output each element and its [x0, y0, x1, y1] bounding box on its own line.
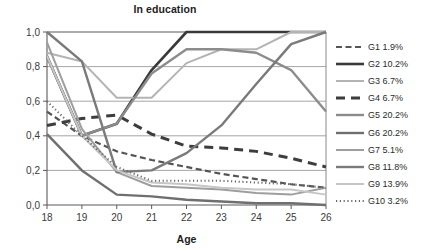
series-line-3: [47, 32, 326, 98]
legend-label: G8 11.8%: [368, 162, 407, 172]
legend-item-2[interactable]: G2 10.2%: [336, 55, 422, 72]
legend-label: G7 5.1%: [368, 145, 403, 155]
legend-swatch-icon: [336, 195, 364, 207]
legend-swatch-icon: [336, 41, 364, 53]
x-tick-label: 21: [146, 212, 158, 223]
x-tick-label: 20: [111, 212, 123, 223]
legend-swatch-icon: [336, 127, 364, 139]
legend-item-7[interactable]: G7 5.1%: [336, 141, 422, 158]
legend-label: G1 1.9%: [368, 42, 403, 52]
y-tick-label: 0,8: [26, 61, 40, 72]
legend-item-4[interactable]: G4 6.7%: [336, 90, 422, 107]
y-tick-label: 0,2: [26, 165, 40, 176]
legend-item-6[interactable]: G6 20.2%: [336, 124, 422, 141]
legend-swatch-icon: [336, 178, 364, 190]
x-tick-label: 23: [216, 212, 228, 223]
x-tick-label: 19: [76, 212, 88, 223]
x-axis-title: Age: [177, 233, 197, 245]
chart-legend: G1 1.9%G2 10.2%G3 6.7%G4 6.7%G5 20.2%G6 …: [336, 38, 422, 210]
gridlines: [47, 32, 326, 205]
legend-swatch-icon: [336, 92, 364, 104]
legend-label: G9 13.9%: [368, 179, 408, 189]
chart-container: In education 0,00,20,40,60,81,0 18192021…: [0, 0, 422, 250]
legend-label: G5 20.2%: [368, 110, 408, 120]
y-tick-label: 0,6: [26, 96, 40, 107]
y-tick-label: 1,0: [26, 27, 40, 38]
legend-label: G10 3.2%: [368, 196, 408, 206]
legend-item-8[interactable]: G8 11.8%: [336, 158, 422, 175]
legend-swatch-icon: [336, 58, 364, 70]
legend-item-3[interactable]: G3 6.7%: [336, 72, 422, 89]
x-tick-label: 26: [320, 212, 332, 223]
legend-label: G2 10.2%: [368, 59, 408, 69]
legend-label: G4 6.7%: [368, 93, 403, 103]
legend-swatch-icon: [336, 109, 364, 121]
y-axis-labels: 0,00,20,40,60,81,0: [26, 27, 40, 211]
legend-swatch-icon: [336, 161, 364, 173]
x-tick-label: 24: [251, 212, 263, 223]
legend-item-10[interactable]: G10 3.2%: [336, 193, 422, 210]
legend-item-5[interactable]: G5 20.2%: [336, 107, 422, 124]
y-tick-label: 0,0: [26, 200, 40, 211]
data-series-group: [47, 32, 326, 205]
x-tick-label: 22: [181, 212, 193, 223]
legend-label: G3 6.7%: [368, 76, 403, 86]
series-line-7: [47, 42, 326, 194]
y-tick-label: 0,4: [26, 130, 40, 141]
legend-label: G6 20.2%: [368, 128, 408, 138]
x-tick-label: 25: [286, 212, 298, 223]
plot-frame: [47, 32, 326, 205]
legend-item-9[interactable]: G9 13.9%: [336, 176, 422, 193]
legend-swatch-icon: [336, 144, 364, 156]
x-tick-label: 18: [41, 212, 53, 223]
legend-item-1[interactable]: G1 1.9%: [336, 38, 422, 55]
series-line-8: [47, 32, 326, 172]
x-axis-labels: 181920212223242526: [41, 212, 332, 223]
legend-swatch-icon: [336, 75, 364, 87]
